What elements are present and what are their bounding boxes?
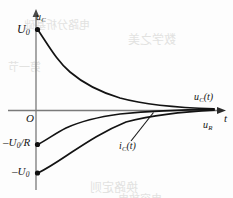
figure-canvas: 数学之美 电路分析基础 第一节 换路定则 电容放电 uC U0 –U0/R –U… — [0, 0, 233, 198]
y-tick-label-neg-u0-over-r-suffix: /R — [20, 136, 30, 148]
ur-curve-label: uR — [203, 119, 212, 131]
marker-dot-neg-u0 — [35, 170, 40, 175]
origin-label: O — [26, 112, 34, 124]
y-tick-label-u0: U0 — [17, 22, 30, 37]
ic-curve-label: iC(t) — [119, 140, 136, 152]
y-tick-label-u0-subscript: 0 — [26, 28, 30, 37]
ur-curve-label-subscript: R — [208, 124, 212, 131]
ic-curve-label-suffix: (t) — [127, 140, 136, 151]
y-axis-label: uC — [36, 11, 46, 23]
x-axis-label: t — [224, 112, 227, 124]
y-tick-label-u0-text: U — [17, 22, 26, 36]
y-tick-label-neg-u0-text: –U — [12, 165, 25, 177]
marker-dot-u0 — [35, 27, 40, 32]
y-tick-label-neg-u0-over-r-text: –U — [3, 136, 16, 148]
ic-label-leader-line — [131, 113, 154, 142]
y-axis-label-subscript: C — [41, 16, 46, 23]
uc-curve — [38, 30, 214, 109]
y-tick-label-neg-u0-subscript: 0 — [25, 170, 29, 179]
y-tick-label-neg-u0: –U0 — [12, 165, 29, 179]
y-tick-label-neg-u0-over-r: –U0/R — [3, 136, 30, 150]
marker-dot-neg-u0-over-r — [35, 142, 40, 147]
uc-curve-label-suffix: (t) — [204, 91, 213, 102]
uc-curve-label: uC(t) — [194, 91, 213, 103]
